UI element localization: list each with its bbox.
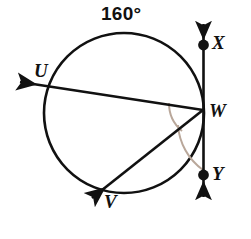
point-label-v: V: [104, 192, 117, 211]
angle-arc-vwy: [178, 125, 203, 170]
point-label-x: X: [212, 33, 225, 52]
ray-wu: [20, 82, 203, 110]
circle-shape: [44, 33, 204, 193]
point-label-u: U: [34, 61, 48, 80]
arc-measure-label: 160°: [101, 4, 142, 23]
ray-wv: [92, 110, 203, 198]
point-label-w: W: [209, 101, 226, 120]
point-label-y: Y: [212, 164, 224, 183]
point-dot-y: [198, 170, 209, 181]
point-dot-x: [198, 40, 209, 51]
geometry-figure: 160° U V W X Y: [0, 0, 251, 239]
